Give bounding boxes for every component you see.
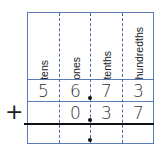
header-ones: ones — [60, 13, 91, 80]
header-label: hundredths — [133, 24, 145, 80]
header-label: tenths — [101, 48, 113, 80]
header-label: ones — [70, 54, 82, 80]
digit: 3 — [123, 80, 154, 102]
decimal-point — [88, 118, 92, 122]
decimal-point — [88, 96, 92, 100]
header-hundredths: hundredths — [123, 13, 154, 80]
digit — [28, 102, 59, 124]
header-tenths: tenths — [91, 13, 122, 80]
digit: 7 — [123, 102, 154, 124]
digit: 7 — [91, 80, 122, 102]
header-tens: tens — [28, 13, 59, 80]
place-value-chart: tens ones tenths hundredths 5 6 7 3 0 3 … — [27, 12, 154, 144]
digit: 6 — [60, 80, 91, 102]
digit: 0 — [60, 102, 91, 124]
digit: 5 — [28, 80, 59, 102]
digit: 3 — [91, 102, 122, 124]
plus-sign: + — [5, 102, 23, 122]
decimal-point — [88, 138, 92, 142]
header-label: tens — [38, 57, 50, 80]
